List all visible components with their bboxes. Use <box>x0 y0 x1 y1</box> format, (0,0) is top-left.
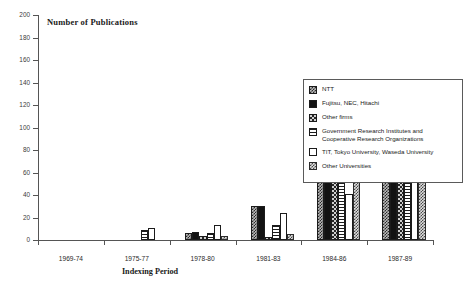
bar <box>141 230 148 240</box>
bar <box>185 233 192 240</box>
x-tick-label: 1969-74 <box>59 255 83 262</box>
legend-swatch-government <box>309 128 317 136</box>
y-tick-label: 20 <box>2 214 30 221</box>
x-tick-label: 1984-86 <box>322 255 346 262</box>
bar <box>287 234 294 240</box>
bar <box>353 177 360 240</box>
y-tick-label: 180 <box>2 34 30 41</box>
x-tick-label: 1975-77 <box>125 255 149 262</box>
legend-item[interactable]: TIT, Tokyo University, Waseda University <box>309 148 457 157</box>
x-tick-mark <box>301 240 302 245</box>
x-tick-mark <box>170 240 171 245</box>
bar <box>251 206 258 240</box>
y-tick-label: 40 <box>2 191 30 198</box>
legend-item-label: Fujitsu, NEC, Hitachi <box>322 99 379 107</box>
legend-swatch-other-universities <box>309 162 317 170</box>
legend-item[interactable]: Other firms <box>309 113 457 122</box>
y-tick-label: 0 <box>2 236 30 243</box>
legend: NTTFujitsu, NEC, HitachiOther firmsGover… <box>303 79 463 183</box>
bar <box>265 237 272 240</box>
legend-item-label: Other Universities <box>322 162 371 170</box>
legend-item[interactable]: Other Universities <box>309 162 457 171</box>
bar <box>207 233 214 240</box>
y-tick-label: 200 <box>2 11 30 18</box>
x-tick-mark <box>104 240 105 245</box>
bar <box>148 228 155 240</box>
y-tick-label: 160 <box>2 56 30 63</box>
y-tick-label: 120 <box>2 101 30 108</box>
bar <box>199 236 206 241</box>
y-tick-label: 100 <box>2 124 30 131</box>
bar <box>214 225 221 240</box>
y-tick-label: 60 <box>2 169 30 176</box>
bar <box>221 236 228 241</box>
legend-item-label: Other firms <box>322 113 353 121</box>
legend-item-label: Government Research Institutes and Coope… <box>322 127 457 142</box>
legend-item[interactable]: Fujitsu, NEC, Hitachi <box>309 99 457 108</box>
y-tick-label: 80 <box>2 146 30 153</box>
legend-swatch-ntt <box>309 86 317 94</box>
chart-root: Number of Publications 02040608010012014… <box>0 0 467 292</box>
x-axis-title: Indexing Period <box>0 267 300 276</box>
y-tick-label: 140 <box>2 79 30 86</box>
bar <box>280 213 287 240</box>
x-tick-mark <box>367 240 368 245</box>
bar <box>192 232 199 240</box>
x-tick-mark <box>236 240 237 245</box>
x-tick-label: 1978-80 <box>190 255 214 262</box>
x-tick-label: 1987-89 <box>388 255 412 262</box>
legend-swatch-other-firms <box>309 114 317 122</box>
legend-item[interactable]: NTT <box>309 85 457 94</box>
x-tick-label: 1981-83 <box>256 255 280 262</box>
bar <box>272 225 279 240</box>
legend-item-label: TIT, Tokyo University, Waseda University <box>322 148 433 156</box>
legend-swatch-fujitsu <box>309 100 317 108</box>
x-tick-mark <box>433 240 434 245</box>
legend-item-label: NTT <box>322 85 334 93</box>
legend-item[interactable]: Government Research Institutes and Coope… <box>309 127 457 142</box>
bar <box>258 206 265 240</box>
bar <box>345 194 352 240</box>
legend-swatch-universities <box>309 148 317 156</box>
x-tick-mark <box>38 240 39 245</box>
